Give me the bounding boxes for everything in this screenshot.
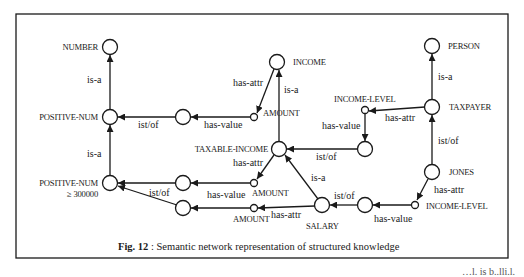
- label-taxable-income: TAXABLE-INCOME: [195, 144, 268, 154]
- label-number: NUMBER: [62, 42, 98, 52]
- edge-label-salary-hasattr: has-attr: [271, 209, 302, 220]
- figure-caption-text: : Semantic network representation of str…: [148, 241, 399, 252]
- node-salary: [315, 198, 330, 213]
- label-income: INCOME: [293, 57, 326, 67]
- label-positive-num-300000-line2: ≥ 300000: [67, 189, 98, 199]
- node-value-low: [176, 201, 191, 216]
- node-jones: [425, 165, 440, 180]
- node-value-taxable: [358, 142, 373, 157]
- node-amount-top: [251, 114, 258, 121]
- label-amount-top: AMOUNT: [263, 108, 300, 118]
- edge-salary-hasattr-amount: [258, 206, 315, 208]
- node-person: [425, 39, 440, 54]
- label-amount-low: AMOUNT: [233, 214, 270, 224]
- edge-jones-hasattr: [417, 179, 428, 200]
- node-value-salary: [358, 198, 373, 213]
- edge-label-salary-istof: ist/of: [334, 190, 355, 201]
- label-income-level-low: INCOME-LEVEL: [426, 201, 488, 211]
- edge-label-person-isa: is-a: [438, 71, 453, 82]
- edge-label-pos-istof: ist/of: [138, 119, 159, 130]
- edge-label-taxpayer-hasattr: has-attr: [385, 112, 416, 123]
- label-jones: JONES: [449, 167, 474, 177]
- edge-label-number-isa: is-a: [87, 74, 102, 85]
- label-taxpayer: TAXPAYER: [449, 102, 491, 112]
- node-amount-low: [251, 205, 258, 212]
- edge-label-taxable-hasattr: has-attr: [233, 157, 264, 168]
- edge-label-jones-hasattr: has-attr: [434, 184, 465, 195]
- label-income-level-top: INCOME-LEVEL: [334, 94, 396, 104]
- label-amount-mid: AMOUNT: [252, 188, 289, 198]
- figure-caption: Fig. 12 : Semantic network representatio…: [118, 241, 400, 252]
- edge-label-top-hasvalue: has-value: [204, 119, 243, 130]
- stray-text-fragment: …l. is b..lli.l.: [462, 266, 515, 277]
- node-taxable-income: [272, 142, 287, 157]
- node-positive-num: [103, 110, 118, 125]
- figure-caption-prefix: Fig. 12: [118, 241, 148, 252]
- edge-label-mid-hasvalue: has-value: [207, 189, 246, 200]
- label-positive-num: POSITIVE-NUM: [39, 112, 98, 122]
- node-number: [103, 40, 118, 55]
- edge-label-pos300-isa: is-a: [87, 148, 102, 159]
- edge-label-income-hasattr: has-attr: [233, 77, 264, 88]
- label-positive-num-300000-line1: POSITIVE-NUM: [39, 178, 98, 188]
- node-value-top: [176, 110, 191, 125]
- edge-label-taxable-istof: ist/of: [316, 151, 337, 162]
- edge-label-il-hasvalue: has-value: [322, 120, 361, 131]
- node-amount-mid: [251, 180, 258, 187]
- node-income: [270, 55, 285, 70]
- node-income-level-top: [362, 107, 369, 114]
- edge-income-hasattr-amount: [257, 69, 274, 113]
- edge-label-income-isa: is-a: [284, 84, 299, 95]
- edge-label-taxpayer-istof: ist/of: [438, 135, 459, 146]
- edge-label-pos300-istof: ist/of: [149, 187, 170, 198]
- node-value-mid: [176, 176, 191, 191]
- edge-label-low-hasvalue: has-value: [374, 213, 413, 224]
- semantic-network-diagram: NUMBER POSITIVE-NUM POSITIVE-NUM ≥ 30000…: [0, 0, 524, 277]
- node-taxpayer: [425, 100, 440, 115]
- label-salary: SALARY: [306, 221, 339, 231]
- node-positive-num-300000: [103, 176, 118, 191]
- edge-label-salary-isa: is-a: [311, 172, 326, 183]
- node-income-level-low: [412, 202, 419, 209]
- label-person: PERSON: [448, 41, 481, 51]
- edge-taxpayer-hasattr: [369, 107, 425, 111]
